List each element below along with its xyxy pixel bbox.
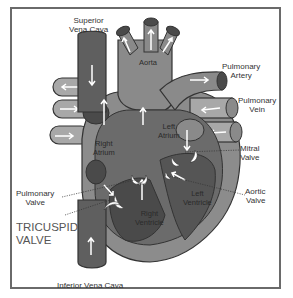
label-line: Artery xyxy=(222,71,260,80)
inferior-vena-cava xyxy=(78,200,106,268)
label-aorta: Aorta xyxy=(139,58,157,67)
label-line: Superior xyxy=(69,16,108,25)
label-line: Right xyxy=(135,209,164,218)
label-pulmonary-valve: Pulmonary Valve xyxy=(16,189,54,207)
right-atrium-shape xyxy=(86,160,106,184)
label-line: Valve xyxy=(245,196,265,205)
label-line: Left xyxy=(158,122,180,131)
label-left-ventricle: Left Ventricle xyxy=(183,189,212,207)
label-line: Pulmonary xyxy=(222,62,260,71)
label-line: Right xyxy=(93,139,115,148)
label-right-atrium: Right Atrium xyxy=(93,139,115,157)
label-tricuspid-valve: TRICUSPID VALVE xyxy=(16,221,78,247)
label-pulmonary-artery: Pulmonary Artery xyxy=(222,62,260,80)
label-line: Valve xyxy=(240,153,260,162)
label-line: Vein xyxy=(238,105,276,114)
label-aortic-valve: Aortic Valve xyxy=(245,187,265,205)
label-line: TRICUSPID xyxy=(16,221,78,234)
left-atrium-shape xyxy=(176,119,204,141)
label-right-ventricle: Right Ventricle xyxy=(135,209,164,227)
label-mitral-valve: Mitral Valve xyxy=(240,144,260,162)
label-line: Atrium xyxy=(93,148,115,157)
label-line: Aortic xyxy=(245,187,265,196)
label-line: Left xyxy=(183,189,212,198)
label-inferior-vena-cava: Inferior Vena Cava xyxy=(57,281,123,290)
label-line: Ventricle xyxy=(135,218,164,227)
label-line: Atrium xyxy=(158,131,180,140)
label-left-atrium: Left Atrium xyxy=(158,122,180,140)
label-line: Pulmonary xyxy=(238,96,276,105)
label-line: Vena Cava xyxy=(69,25,108,34)
label-pulmonary-vein: Pulmonary Vein xyxy=(238,96,276,114)
label-line: Valve xyxy=(16,198,54,207)
label-line: Pulmonary xyxy=(16,189,54,198)
label-line: Mitral xyxy=(240,144,260,153)
label-superior-vena-cava: Superior Vena Cava xyxy=(69,16,108,34)
label-line: VALVE xyxy=(16,234,78,247)
label-line: Ventricle xyxy=(183,198,212,207)
